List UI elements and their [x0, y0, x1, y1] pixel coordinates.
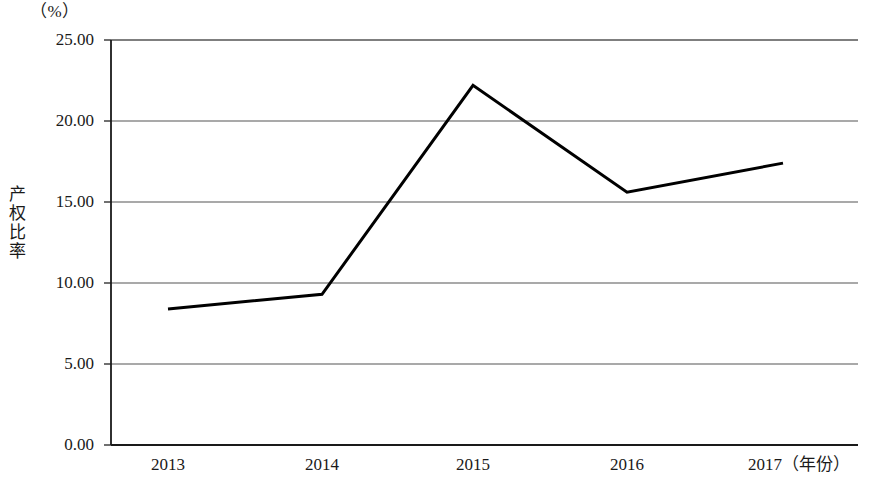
x-axis-tick-label: 2013 [151, 455, 185, 475]
data-line [168, 85, 783, 309]
x-axis-tick-label: 2015 [456, 455, 490, 475]
data-series-group [168, 85, 783, 309]
x-axis-tick-label: 2017（年份） [748, 455, 850, 475]
x-axis-tick-label: 2014 [305, 455, 339, 475]
chart-figure: （%） 产权比率 25.0020.0015.0010.005.000.00 20… [0, 0, 883, 484]
axis-group [111, 40, 858, 445]
x-axis-tick-label: 2016 [610, 455, 644, 475]
chart-plot-area [0, 0, 883, 484]
gridline-group [111, 40, 858, 364]
x-axis-tick-label-group: 20132014201520162017（年份） [0, 455, 883, 484]
y-tickmark-group [104, 40, 111, 445]
